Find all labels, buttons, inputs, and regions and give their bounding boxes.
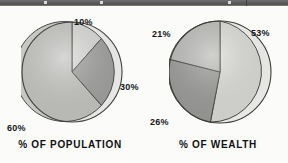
chart-population-caption: % OF POPULATION <box>0 139 142 150</box>
pie-population-graphic <box>21 16 124 128</box>
pie-wealth: 53% 26% 21% <box>144 12 288 130</box>
pie-charts-figure: 10% 30% 60% % OF POPULATION <box>0 6 288 163</box>
pie-population-label-60: 60% <box>7 124 26 133</box>
chart-wealth: 53% 26% 21% % OF WEALTH <box>144 6 288 163</box>
pie-wealth-label-53: 53% <box>251 29 270 38</box>
pie-population: 10% 30% 60% <box>0 12 144 130</box>
chart-population: 10% 30% 60% % OF POPULATION <box>0 6 144 163</box>
pie-wealth-label-21: 21% <box>152 30 171 39</box>
scan-band-tick <box>44 1 47 4</box>
pie-population-label-10: 10% <box>74 18 93 27</box>
chart-wealth-caption: % OF WEALTH <box>146 139 288 150</box>
pie-population-label-30: 30% <box>120 83 139 92</box>
scan-band-tick <box>228 1 231 4</box>
pie-population-outline <box>22 22 122 122</box>
pie-wealth-label-26: 26% <box>150 118 169 127</box>
scan-band-tick <box>100 1 103 4</box>
